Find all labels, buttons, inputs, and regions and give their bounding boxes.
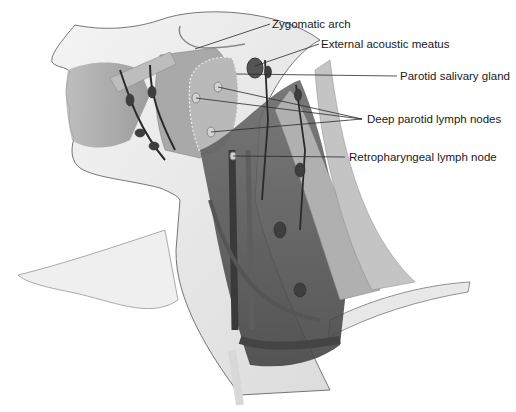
head-neck-illustration: [0, 0, 516, 412]
label-zygomatic-arch: Zygomatic arch: [272, 19, 351, 31]
label-external-acoustic-meatus: External acoustic meatus: [321, 39, 449, 51]
anatomy-figure: Zygomatic arch External acoustic meatus …: [0, 0, 516, 412]
jugular-vein: [232, 150, 235, 330]
label-retropharyngeal-lymph-node: Retropharyngeal lymph node: [349, 152, 497, 164]
label-parotid-salivary-gland: Parotid salivary gland: [400, 71, 510, 83]
shoulder-left: [18, 230, 178, 309]
ear-canal: [247, 58, 263, 78]
label-deep-parotid-lymph-nodes: Deep parotid lymph nodes: [367, 114, 501, 126]
